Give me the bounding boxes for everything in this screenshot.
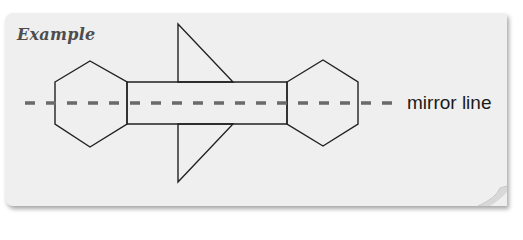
top-triangle [178,24,233,82]
mirror-line-label: mirror line [407,92,491,114]
page-curl-corner [478,186,507,206]
bottom-triangle [178,124,233,182]
